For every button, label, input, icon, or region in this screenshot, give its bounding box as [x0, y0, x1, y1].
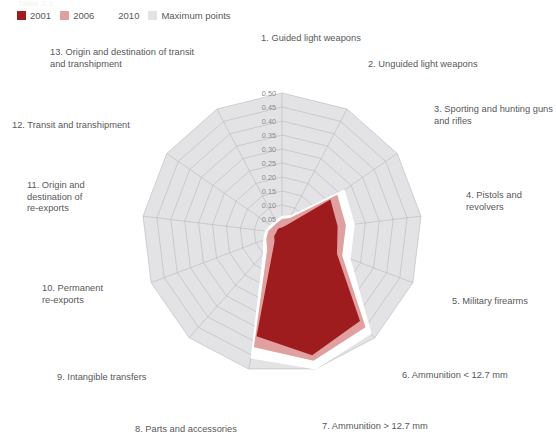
axis-label-4: 4. Pistols and revolvers	[466, 190, 552, 213]
axis-label-6: 6. Ammunition < 12.7 mm	[402, 370, 550, 382]
axis-label-11: 11. Origin and destination of re-exports	[27, 180, 109, 215]
axis-label-9: 9. Intangible transfers	[57, 372, 207, 384]
tick-label: 0.20	[262, 173, 276, 182]
tick-label: 0.15	[262, 187, 276, 196]
axis-label-8: 8. Parts and accessories	[135, 424, 295, 436]
tick-label: 0.40	[262, 117, 276, 126]
tick-label: 0.10	[262, 201, 276, 210]
axis-label-12: 12. Transit and transhipment	[12, 120, 157, 132]
axis-label-5: 5. Military firearms	[452, 296, 552, 308]
axis-label-13: 13. Origin and destination of transit an…	[50, 47, 220, 70]
axis-label-3: 3. Sporting and hunting guns and rifles	[434, 104, 554, 127]
axis-label-1: 1. Guided light weapons	[231, 33, 391, 45]
axis-label-7: 7. Ammunition > 12.7 mm	[322, 421, 482, 433]
tick-label: 0.45	[262, 103, 276, 112]
radar-chart-page: Table 3.1 2001 2006 2010 Maximum points …	[0, 0, 556, 446]
tick-label: 0.35	[262, 131, 276, 140]
tick-label: 0.30	[262, 145, 276, 154]
tick-label: 0.25	[262, 159, 276, 168]
tick-label: 0.50	[262, 89, 276, 98]
axis-label-10: 10. Permanent re-exports	[42, 283, 134, 306]
tick-label: 0.05	[262, 215, 276, 224]
axis-label-2: 2. Unguided light weapons	[368, 59, 518, 71]
